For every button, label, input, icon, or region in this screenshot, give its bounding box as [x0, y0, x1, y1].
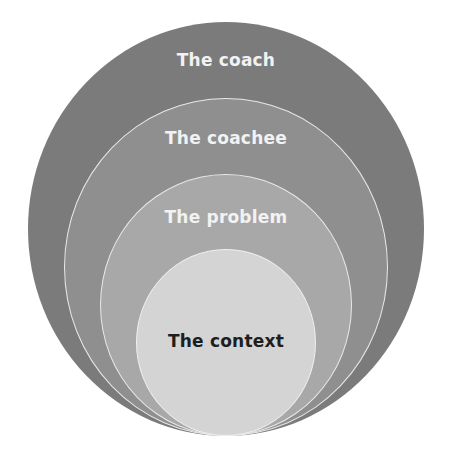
- label-the-coachee: The coachee: [0, 128, 452, 148]
- nested-circles-diagram: The coach The coachee The problem The co…: [0, 0, 452, 455]
- label-the-problem: The problem: [0, 207, 452, 227]
- label-the-context: The context: [0, 331, 452, 351]
- label-the-coach: The coach: [0, 50, 452, 70]
